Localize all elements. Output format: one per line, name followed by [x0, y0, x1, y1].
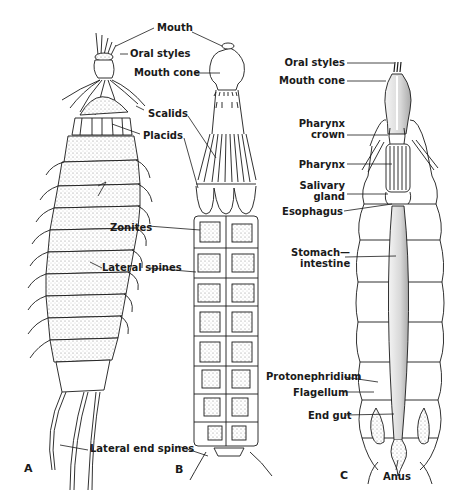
- label-stomach-intestine-line2: intestine: [291, 258, 350, 269]
- label-pharynx-crown-line1: Pharynx: [299, 118, 345, 129]
- label-protonephridium: Protonephridium: [266, 371, 361, 382]
- label-lateral-spines: Lateral spines: [102, 262, 182, 273]
- label-oral-styles-ab: Oral styles: [130, 48, 191, 59]
- specimen-c: [356, 62, 444, 484]
- label-oral-styles-c: Oral styles: [284, 57, 345, 68]
- label-salivary-gland-line2: gland: [299, 191, 345, 202]
- label-zonites: Zonites: [110, 222, 152, 233]
- lateral-end-spines-a: [50, 392, 100, 490]
- scalids-b: [198, 134, 256, 182]
- specimen-b: [190, 43, 272, 480]
- label-scalids: Scalids: [148, 108, 188, 119]
- label-pharynx-crown-line2: crown: [299, 129, 345, 140]
- kinorhynch-figure: [0, 0, 459, 504]
- label-lateral-end-spines: Lateral end spines: [90, 443, 194, 454]
- label-flagellum: Flagellum: [293, 387, 348, 398]
- label-mouth-cone-ab: Mouth cone: [134, 67, 200, 78]
- oral-styles-a: [95, 33, 116, 61]
- label-stomach-intestine: Stomach— intestine: [291, 247, 350, 269]
- label-end-gut: End gut: [308, 410, 352, 421]
- label-mouth-cone-c: Mouth cone: [279, 75, 345, 86]
- label-esophagus: Esophagus: [282, 206, 343, 217]
- scalids-a: [62, 80, 145, 115]
- label-stomach-intestine-line1: Stomach—: [291, 247, 350, 258]
- label-salivary-gland: Salivary gland: [299, 180, 345, 202]
- zonites-b: [194, 216, 258, 446]
- panel-label-b: B: [175, 463, 183, 476]
- label-placids: Placids: [143, 130, 183, 141]
- panel-label-a: A: [24, 462, 33, 475]
- label-pharynx-crown: Pharynx crown: [299, 118, 345, 140]
- placids-b: [196, 184, 256, 214]
- label-mouth: Mouth: [157, 22, 193, 33]
- label-pharynx: Pharynx: [299, 159, 345, 170]
- label-salivary-gland-line1: Salivary: [299, 180, 345, 191]
- panel-label-c: C: [340, 469, 348, 482]
- label-anus: Anus: [383, 471, 411, 482]
